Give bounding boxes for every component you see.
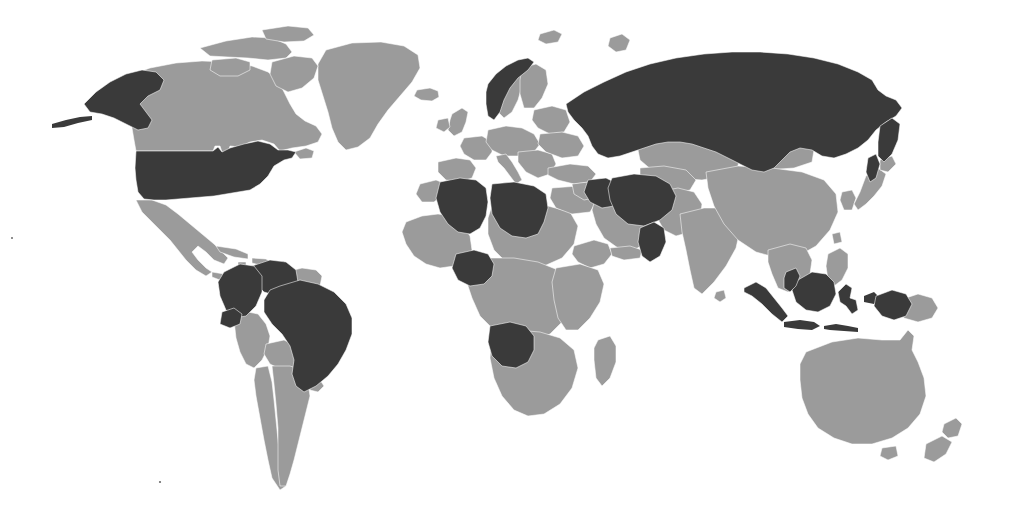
speck-artifact-2	[11, 237, 13, 239]
region-taiwan	[832, 232, 842, 244]
world-map-figure	[0, 0, 1010, 527]
world-map-svg	[0, 0, 1010, 527]
region-australia	[800, 330, 926, 444]
speck-artifact	[159, 481, 161, 483]
region-victoria-island	[210, 58, 250, 76]
